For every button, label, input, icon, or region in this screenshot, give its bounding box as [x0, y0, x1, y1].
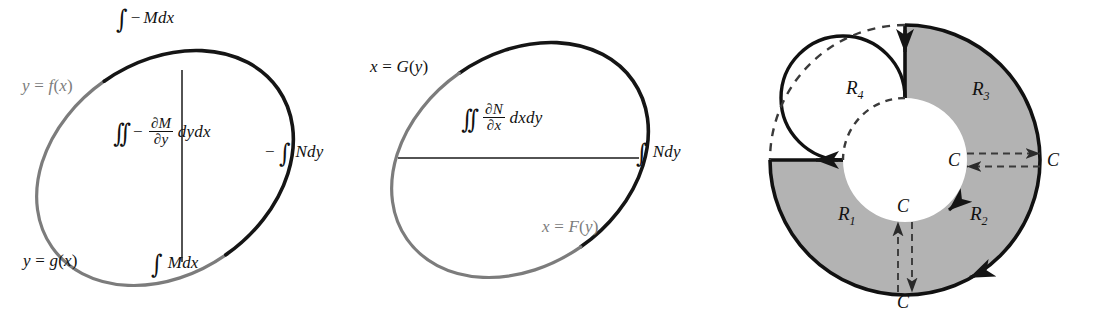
region-letter: R — [972, 78, 984, 99]
region-sub: 3 — [984, 89, 990, 103]
curve-label-C-inner-bottom: C — [897, 196, 909, 217]
label-x-equals-g-of-y: x = G(y) — [370, 58, 428, 75]
label-x-equals-f-of-y: x = F(y) — [542, 218, 599, 235]
region-letter: R — [970, 203, 982, 224]
panel1-bottom-label: ∫ Mdx — [150, 251, 199, 277]
region-label-R3: R3 — [972, 78, 990, 104]
label-y-equals-g-of-x: y = g(x) — [23, 252, 78, 269]
dashed-outer-arc-r4 — [770, 25, 905, 160]
figure-canvas: ∫−Mdx y = f(x) ∫∫−∂M∂y dydx y = g(x) ∫ M… — [0, 0, 1094, 327]
region-letter: R — [838, 203, 850, 224]
curve-label-C-outer-right: C — [1047, 150, 1059, 171]
curve-label-C-outer-bottom: C — [897, 292, 909, 313]
region-sub: 2 — [982, 214, 988, 228]
panel1-double-integral: ∫∫−∂M∂y dydx — [112, 116, 211, 147]
panel2-left-label: −∫ Ndy — [264, 140, 324, 166]
label-y-equals-f-of-x: y = f(x) — [22, 77, 73, 94]
region-label-R2: R2 — [970, 203, 988, 229]
panel2-double-integral: ∫∫∂N∂x dxdy — [460, 102, 542, 133]
panel-n-component: x = G(y) −∫ Ndy ∫∫∂N∂x dxdy ∫ Ndy x = F(… — [330, 0, 730, 327]
panel1-top-label: ∫−Mdx — [115, 6, 174, 32]
region-letter: R — [846, 77, 858, 98]
panel2-right-label: ∫ Ndy — [635, 140, 681, 166]
region-sub: 4 — [858, 88, 864, 102]
region-label-R4: R4 — [846, 77, 864, 103]
panel-annulus-decomposition: R4 R3 R1 R2 C C C C — [720, 0, 1094, 327]
region-sub: 1 — [850, 214, 856, 228]
inner-boundary-arc — [781, 36, 905, 160]
panel3-graphic — [720, 0, 1094, 327]
curve-label-C-inner-right: C — [948, 150, 960, 171]
region-label-R1: R1 — [838, 203, 856, 229]
dashed-inner-arc-r4 — [843, 98, 905, 160]
